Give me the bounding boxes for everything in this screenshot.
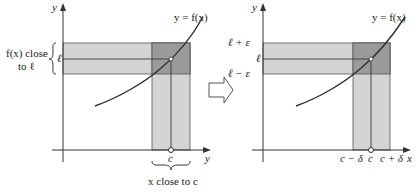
- right-x-axis-label: x: [407, 153, 412, 164]
- left-l-tick-label: ℓ: [57, 53, 62, 64]
- right-y-tick-l-plus-eps: ℓ + ε: [228, 37, 250, 48]
- left-c-tick-label: c: [168, 153, 173, 164]
- right-x-tick-c: c: [368, 153, 373, 164]
- right-limit-point: [369, 57, 373, 61]
- right-x-tick-c-plus-delta: c + δ: [380, 153, 403, 164]
- limit-definition-diagram: [0, 0, 420, 195]
- left-x-brace-label: x close to c: [148, 176, 198, 187]
- left-y-brace-label-line1: f(x) close: [6, 48, 48, 59]
- right-y-tick-l-minus-eps: ℓ − ε: [228, 68, 250, 79]
- left-limit-point: [169, 57, 173, 61]
- right-y-tick-l: ℓ: [256, 53, 261, 64]
- implies-arrow-icon: [209, 77, 233, 103]
- left-panel: [49, 3, 211, 170]
- left-y-axis-arrow-icon: [60, 3, 66, 11]
- right-panel: [252, 3, 411, 162]
- right-x-tick-c-minus-delta: c − δ: [340, 153, 363, 164]
- right-y-axis-arrow-icon: [260, 3, 266, 11]
- left-y-axis-label: y: [52, 2, 57, 13]
- left-x-axis-label: y: [205, 153, 210, 164]
- left-y-brace-icon: [49, 43, 56, 74]
- left-y-brace-label-line2: to ℓ: [18, 61, 35, 72]
- right-curve-label: y = f(x): [372, 12, 406, 23]
- right-y-axis-label: y: [252, 2, 257, 13]
- left-curve-label: y = f(x): [174, 12, 208, 23]
